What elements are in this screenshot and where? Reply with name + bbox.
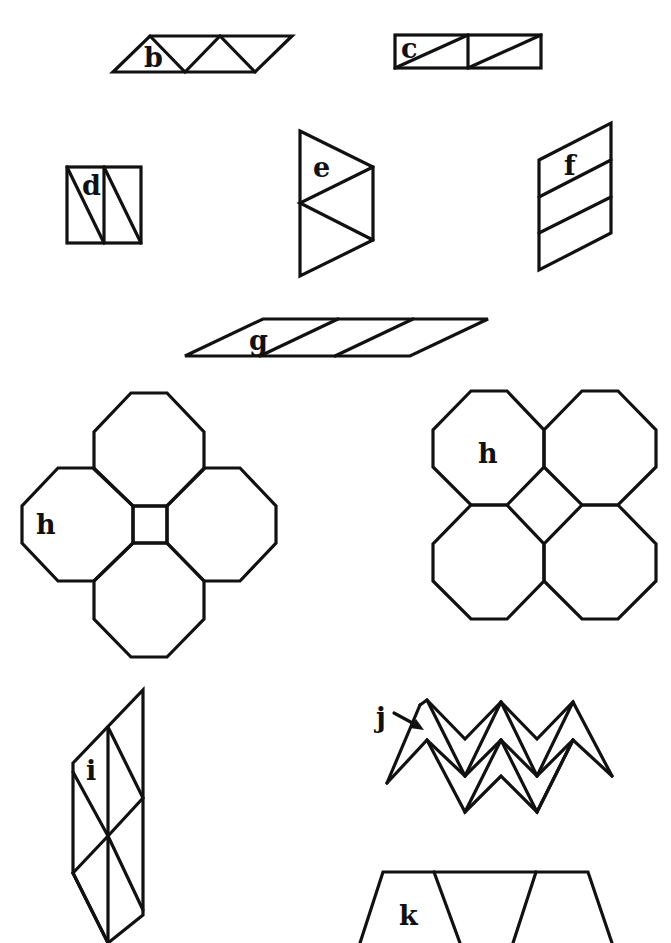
label-b: b [144,42,163,73]
tiling-figure-canvas: b c d e f g [0,0,671,943]
label-e: e [313,152,330,183]
label-c: c [401,33,417,64]
figure-h-square-center: h [22,393,276,657]
figure-g: g [185,319,488,356]
label-k: k [399,900,419,931]
figure-i: i [73,690,143,943]
figure-e: e [300,131,373,276]
label-d: d [82,170,101,201]
figure-k: k [360,872,612,943]
figure-b: b [113,36,292,73]
figure-c: c [395,33,541,68]
label-g: g [249,325,268,356]
figure-j: j [374,700,612,812]
label-h-left: h [36,509,56,540]
figure-d: d [67,167,141,243]
label-j: j [374,702,386,733]
figure-h-diamond-center: h [433,391,656,619]
figure-f: f [539,123,611,270]
label-h-right: h [478,438,498,469]
label-i: i [86,755,96,786]
